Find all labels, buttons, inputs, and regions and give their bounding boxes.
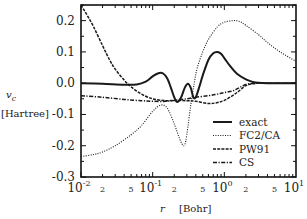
legend-item: FC2/CA: [213, 129, 281, 141]
legend-label: PW91: [239, 143, 270, 155]
x-minor-tick-label: 5: [272, 185, 277, 194]
x-minor-tick-label: 5: [200, 185, 205, 194]
legend-item: PW91: [213, 143, 270, 155]
x-tick-base: 10: [284, 181, 299, 195]
legend-label: exact: [239, 116, 268, 128]
x-tick-base: 10: [139, 181, 154, 195]
y-axis-unit: [Hartree]: [1, 108, 49, 119]
x-minor-tick-label: 2: [172, 185, 177, 194]
x-tick-exponent: 1: [299, 179, 304, 188]
x-minor-tick-label: 2: [243, 185, 248, 194]
x-tick-label: 100: [212, 179, 232, 195]
y-tick-label: -0.2: [52, 139, 75, 153]
legend-label: CS: [239, 156, 254, 168]
x-tick-exponent: -2: [83, 179, 91, 188]
x-tick-label: 10-1: [139, 179, 162, 195]
y-axis-symbol: vc: [6, 89, 17, 103]
y-axis-subscript: c: [12, 94, 17, 103]
x-minor-tick-label: 2: [100, 185, 105, 194]
x-minor-tick-label: 5: [129, 185, 134, 194]
x-tick-base: 10: [212, 181, 227, 195]
y-tick-label: -0.1: [52, 107, 75, 121]
legend-item: exact: [213, 116, 268, 128]
x-axis-unit: [Bohr]: [179, 203, 211, 214]
x-tick-label: 101: [284, 179, 304, 195]
series-line-pw91: [81, 5, 296, 104]
tick-labels: 0.20.10.0-0.1-0.2-0.310-210-110010125252…: [52, 14, 304, 195]
x-tick-exponent: 0: [227, 179, 232, 188]
x-tick-label: 10-2: [67, 179, 90, 195]
y-tick-label: 0.0: [56, 76, 75, 90]
x-tick-exponent: -1: [154, 179, 162, 188]
y-tick-label: 0.1: [56, 45, 75, 59]
x-tick-base: 10: [67, 181, 82, 195]
legend: exactFC2/CAPW91CS: [213, 116, 281, 169]
chart: 0.20.10.0-0.1-0.2-0.310-210-110010125252…: [0, 0, 307, 219]
y-tick-label: 0.2: [56, 14, 75, 28]
legend-label: FC2/CA: [239, 129, 281, 141]
x-axis-symbol: r: [160, 203, 166, 214]
series-line-exact: [81, 52, 296, 102]
series-line-cs: [81, 83, 296, 101]
legend-item: CS: [213, 156, 254, 168]
